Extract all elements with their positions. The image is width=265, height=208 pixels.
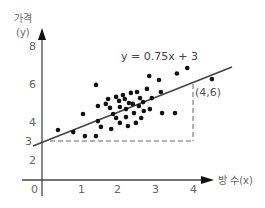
data-point bbox=[99, 125, 104, 130]
data-point bbox=[114, 116, 119, 121]
data-point bbox=[81, 112, 86, 117]
data-point bbox=[83, 134, 88, 139]
data-point bbox=[138, 96, 143, 101]
data-point bbox=[126, 124, 131, 129]
data-point bbox=[118, 105, 123, 110]
point-annotation: (4,6) bbox=[195, 86, 221, 99]
data-point bbox=[71, 130, 76, 135]
data-point bbox=[134, 121, 139, 126]
scatter-chart: 8 6 4 3 2 0 1 2 3 4 가격 (y) 방 수(x) y = 0.… bbox=[0, 0, 265, 208]
data-point bbox=[145, 87, 150, 92]
data-point bbox=[157, 78, 162, 83]
y-tick-label: 2 bbox=[29, 154, 36, 167]
data-point bbox=[124, 115, 129, 120]
data-point bbox=[132, 111, 137, 116]
y-axis-arrow-icon bbox=[38, 28, 46, 40]
data-point bbox=[159, 90, 164, 95]
y-tick-label: 3 bbox=[25, 135, 32, 148]
data-point bbox=[108, 106, 113, 111]
data-point bbox=[123, 97, 128, 102]
x-axis-arrow-icon bbox=[201, 176, 214, 184]
data-point bbox=[96, 119, 101, 124]
data-point bbox=[114, 95, 119, 100]
data-point bbox=[185, 66, 190, 71]
data-point bbox=[160, 111, 165, 116]
y-tick-label: 4 bbox=[29, 116, 36, 129]
data-point bbox=[142, 109, 147, 114]
data-point bbox=[109, 127, 114, 132]
data-point bbox=[129, 91, 134, 96]
data-point bbox=[96, 104, 101, 109]
x-tick-label: 3 bbox=[152, 183, 159, 196]
data-point bbox=[56, 128, 61, 133]
x-axis-title: 방 수(x) bbox=[218, 175, 253, 186]
data-point bbox=[94, 134, 99, 139]
data-point bbox=[106, 97, 111, 102]
x-tick-label: 0 bbox=[31, 183, 38, 196]
y-axis-title-var: (y) bbox=[16, 27, 30, 38]
data-point bbox=[173, 111, 178, 116]
data-point bbox=[139, 116, 144, 121]
data-point bbox=[124, 107, 129, 112]
data-point bbox=[121, 93, 126, 98]
regression-equation: y = 0.75x + 3 bbox=[121, 50, 198, 63]
data-point bbox=[137, 104, 142, 109]
regression-line bbox=[33, 67, 232, 146]
data-point bbox=[94, 83, 99, 88]
data-point bbox=[135, 90, 140, 95]
data-point bbox=[117, 99, 122, 104]
x-tick-label: 2 bbox=[114, 183, 121, 196]
x-tick-label: 1 bbox=[78, 183, 85, 196]
y-tick-label: 8 bbox=[29, 40, 36, 53]
data-point bbox=[175, 71, 180, 76]
data-point bbox=[148, 107, 153, 112]
y-tick-label: 6 bbox=[29, 78, 36, 91]
x-tick-label: 4 bbox=[190, 183, 197, 196]
data-point bbox=[131, 102, 136, 107]
data-point bbox=[147, 74, 152, 79]
y-axis-title: 가격 bbox=[14, 12, 32, 24]
data-point bbox=[127, 101, 132, 106]
data-point bbox=[141, 100, 146, 105]
data-point bbox=[210, 77, 215, 82]
data-point bbox=[111, 112, 116, 117]
data-point bbox=[150, 96, 155, 101]
data-point bbox=[104, 102, 109, 107]
data-point bbox=[118, 121, 123, 126]
